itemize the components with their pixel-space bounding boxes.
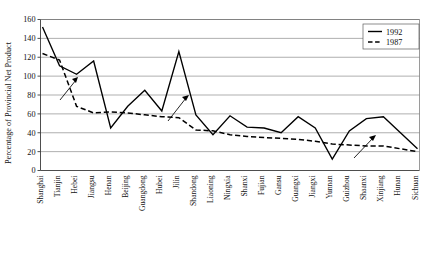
y-tick-label-60: 60: [27, 110, 35, 119]
x-tick-label-jiangsu: Jiangsu: [87, 175, 96, 198]
provincial-net-product-line-chart: 020406080100120140160 ShanghaiTianjinHeb…: [0, 0, 425, 253]
x-tick-label-gansu: Gansu: [274, 175, 283, 195]
x-tick-label-shanghai: Shanghai: [36, 176, 45, 204]
x-tick-label-henan: Henan: [104, 175, 113, 195]
x-tick-label-hubei: Hubei: [155, 176, 164, 195]
x-tick-label-guangdong: Guangdong: [138, 175, 147, 211]
y-tick-label-20: 20: [27, 148, 35, 157]
x-tick-label-shanxi: Shanxi: [240, 176, 249, 197]
chart-background: [0, 0, 425, 253]
y-axis-title: Percentage of Provincial Net Product: [4, 41, 13, 164]
x-tick-label-fujian: Fujian: [257, 175, 266, 195]
chart-figure: 020406080100120140160 ShanghaiTianjinHeb…: [0, 0, 425, 253]
y-tick-label-0: 0: [31, 166, 35, 175]
y-tick-label-160: 160: [23, 15, 35, 24]
x-tick-label-guangxi: Guangxi: [291, 176, 300, 202]
x-tick-label-guizhou: Guizhou: [342, 175, 351, 201]
legend-label-1987: 1987: [386, 38, 402, 47]
chart-legend: 1992 1987: [363, 24, 419, 49]
legend-label-1992: 1992: [386, 28, 402, 37]
x-tick-label-jiangxi: Jiangxi: [308, 176, 317, 198]
x-tick-label-hunan: Hunan: [393, 175, 402, 195]
x-tick-label-yunnan: Yunnan: [325, 175, 334, 198]
x-tick-label-hebei: Hebei: [70, 176, 79, 194]
x-tick-label-shaanxi: Shaanxi: [359, 176, 368, 200]
x-tick-label-tianjin: Tianjin: [53, 175, 62, 197]
x-tick-label-sichuan: Sichuan: [411, 175, 420, 200]
y-tick-label-40: 40: [27, 129, 35, 138]
x-tick-label-jilin: Jilin: [172, 175, 181, 188]
x-tick-label-xinjiang: Xinjiang: [376, 175, 385, 202]
y-tick-label-120: 120: [23, 53, 35, 62]
x-tick-label-liaoning: Liaoning: [206, 175, 215, 203]
x-tick-label-shandong: Shandong: [189, 175, 198, 206]
y-tick-label-80: 80: [27, 91, 35, 100]
x-tick-label-ningxia: Ningxia: [223, 175, 232, 200]
x-tick-label-beijing: Beijing: [121, 175, 130, 198]
y-tick-label-100: 100: [23, 72, 35, 81]
y-tick-label-140: 140: [23, 34, 35, 43]
